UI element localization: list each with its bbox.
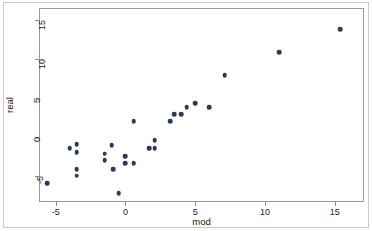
data-point [109,143,114,148]
data-point [222,73,227,78]
y-tick-label: -5 [35,176,45,184]
scatter-plot-figure: -5051015 -5051015 mod real [0,0,372,231]
data-point [102,158,107,163]
data-point [132,161,137,166]
x-tick-mark [56,202,57,206]
x-tick-mark [195,202,196,206]
data-point [45,181,50,186]
data-point [207,105,212,110]
x-tick-mark [265,202,266,206]
data-point [116,191,121,196]
data-point [132,119,137,124]
y-tick-label: 10 [37,59,47,69]
x-axis-title: mod [39,216,364,227]
data-point [338,27,343,32]
y-axis-title: real [4,97,15,113]
data-point [172,112,177,117]
data-point [185,105,190,110]
data-point [193,101,198,106]
data-point [67,146,72,151]
y-tick-label: 5 [32,98,42,103]
y-tick-label: 15 [37,20,47,30]
data-point [74,167,79,172]
data-point [152,138,157,143]
data-point [102,151,107,156]
data-point [147,146,152,151]
plot-area [39,8,364,202]
data-point [111,167,116,172]
y-tick-label: 0 [32,137,42,142]
data-point [152,146,157,151]
data-point [74,142,79,147]
data-point [277,50,282,55]
x-tick-mark [125,202,126,206]
data-point [168,119,173,124]
data-point [74,150,79,155]
data-point [74,173,79,178]
data-point [179,112,184,117]
data-point [123,154,128,159]
data-point [123,161,128,166]
x-tick-mark [335,202,336,206]
